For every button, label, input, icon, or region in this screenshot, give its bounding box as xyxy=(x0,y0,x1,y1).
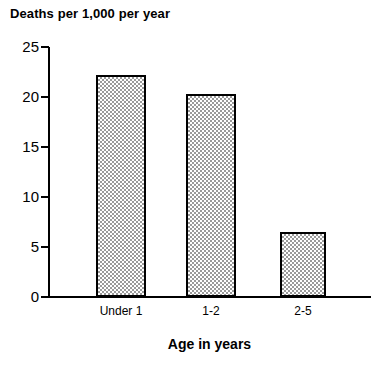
x-axis-tick-label: 2-5 xyxy=(253,304,353,318)
y-axis-tick-label: 5 xyxy=(0,239,39,254)
y-axis-tick-mark xyxy=(41,296,49,298)
chart-plot-area: 2520151050 Under 11-22-5 xyxy=(0,0,387,373)
x-axis-tick-label: Under 1 xyxy=(71,304,171,318)
x-axis-title: Age in years xyxy=(48,336,371,352)
y-axis-line xyxy=(48,47,50,298)
bar-2-5 xyxy=(280,232,326,297)
bar-1-2 xyxy=(186,94,236,297)
y-axis-tick-label: 20 xyxy=(0,89,39,104)
y-axis-tick-label: 25 xyxy=(0,39,39,54)
y-axis-tick-label: 15 xyxy=(0,139,39,154)
y-axis-tick-mark xyxy=(41,146,49,148)
y-axis-tick-label: 10 xyxy=(0,189,39,204)
y-axis-tick-label: 0 xyxy=(0,289,39,304)
bar-under-1 xyxy=(96,75,146,297)
x-axis-tick-label: 1-2 xyxy=(161,304,261,318)
y-axis-tick-mark xyxy=(41,196,49,198)
y-axis-tick-mark xyxy=(41,96,49,98)
y-axis-tick-mark xyxy=(41,46,49,48)
y-axis-tick-mark xyxy=(41,246,49,248)
